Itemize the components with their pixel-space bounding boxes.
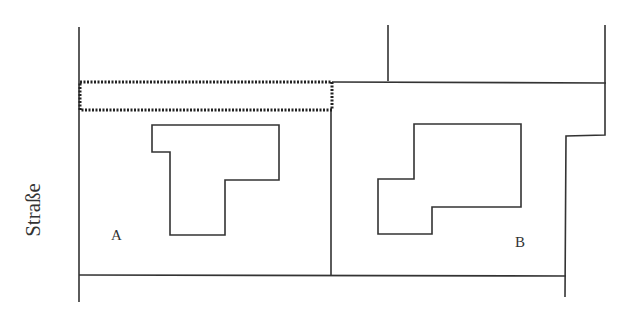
site-plan-diagram (0, 0, 618, 316)
building-b (378, 124, 521, 234)
building-a (152, 125, 279, 235)
top-boundary-line (332, 82, 606, 83)
right-boundary-line (565, 25, 605, 297)
street-label: Straße (21, 183, 46, 237)
plot-label-a: A (111, 227, 122, 244)
plot-label-b: B (515, 234, 525, 251)
bottom-boundary-line (79, 275, 566, 276)
dotted-strip-rect (80, 82, 332, 110)
